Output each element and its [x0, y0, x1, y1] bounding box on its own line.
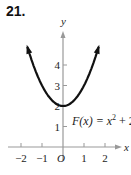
y-axis-label: y	[60, 15, 66, 27]
y-tick-label: 4	[55, 59, 61, 71]
y-tick-label: 1	[55, 121, 61, 133]
curve-right-arrow-icon	[94, 45, 100, 54]
x-axis-arrow-icon	[115, 145, 122, 150]
curve-left-arrow-icon	[26, 45, 32, 54]
x-tick-label: −2	[15, 152, 27, 164]
x-tick-label: 2	[102, 152, 108, 164]
y-axis-arrow-icon	[61, 31, 66, 38]
x-axis-label: x	[123, 141, 129, 153]
y-tick-label: 3	[55, 80, 61, 92]
x-tick-label: 1	[81, 152, 87, 164]
parabola-plot: xy−2−112O1234F(x) = x2 + 2	[0, 0, 131, 175]
origin-label: O	[57, 152, 65, 164]
function-label: F(x) = x2 + 2	[71, 113, 131, 128]
x-tick-label: −1	[36, 152, 48, 164]
